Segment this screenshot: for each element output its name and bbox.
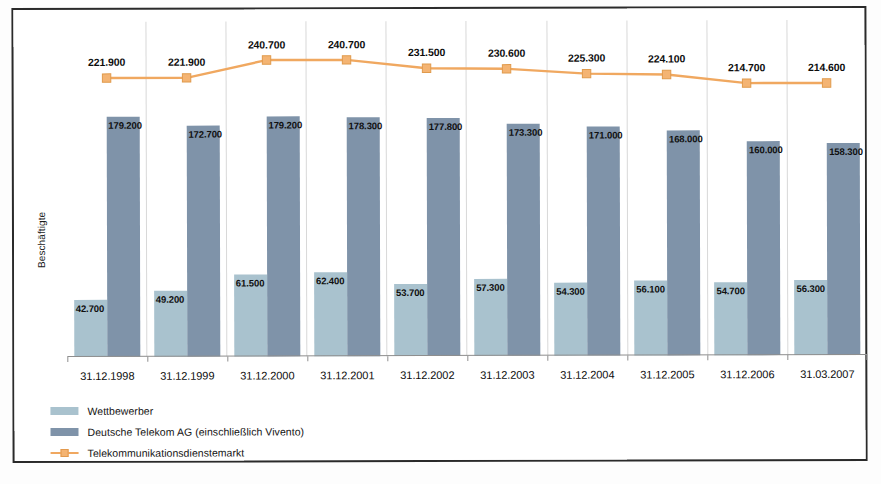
x-tick-label: 31.12.2001 bbox=[307, 356, 387, 390]
legend-item: Deutsche Telekom AG (einschließlich Vive… bbox=[50, 422, 550, 441]
x-tick-label: 31.12.1998 bbox=[67, 357, 147, 391]
x-tick-label: 31.03.2007 bbox=[787, 355, 867, 389]
x-tick-label: 31.12.2003 bbox=[467, 356, 547, 390]
line-value-label: 214.600 bbox=[808, 61, 845, 73]
x-tick-label: 31.12.2000 bbox=[227, 356, 307, 390]
chart-frame-inner: Beschäftigte 42.700179.20049.200172.7006… bbox=[13, 8, 865, 461]
line-data-labels: 221.900221.900240.700240.700231.500230.6… bbox=[66, 20, 867, 357]
line-value-label: 225.300 bbox=[568, 52, 605, 64]
x-tick-label: 31.12.2005 bbox=[627, 355, 707, 389]
line-value-label: 240.700 bbox=[328, 38, 365, 50]
legend-label: Deutsche Telekom AG (einschließlich Vive… bbox=[87, 425, 304, 438]
figure-caption bbox=[63, 455, 863, 467]
legend-item: Wettbewerber bbox=[50, 401, 550, 420]
legend-swatch-dark bbox=[51, 428, 79, 436]
line-value-label: 240.700 bbox=[248, 38, 285, 50]
y-axis-title: Beschäftigte bbox=[36, 212, 47, 268]
x-axis-tick-labels: 31.12.199831.12.199931.12.200031.12.2001… bbox=[67, 355, 867, 391]
chart-page: Beschäftigte 42.700179.20049.200172.7006… bbox=[0, 0, 881, 484]
x-tick-label: 31.12.2004 bbox=[547, 356, 627, 390]
legend-label: Wettbewerber bbox=[87, 405, 153, 417]
x-tick-label: 31.12.2006 bbox=[707, 355, 787, 389]
line-value-label: 221.900 bbox=[168, 56, 205, 68]
line-value-label: 214.700 bbox=[728, 61, 765, 73]
line-value-label: 231.500 bbox=[408, 46, 445, 58]
line-value-label: 224.100 bbox=[648, 52, 685, 64]
x-tick-label: 31.12.1999 bbox=[147, 357, 227, 391]
chart-frame: Beschäftigte 42.700179.20049.200172.7006… bbox=[11, 6, 867, 463]
x-tick-label: 31.12.2002 bbox=[387, 356, 467, 390]
line-value-label: 230.600 bbox=[488, 47, 525, 59]
legend-swatch-light bbox=[50, 407, 78, 415]
line-value-label: 221.900 bbox=[88, 56, 125, 68]
